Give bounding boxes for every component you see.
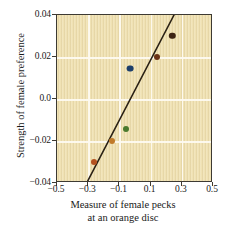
x-axis-title-line1: Measure of female pecks [40, 199, 206, 212]
x-tick-label: 0.5 [195, 184, 229, 194]
x-tick-label: 0.1 [133, 184, 167, 194]
data-point [109, 138, 115, 144]
plot-area [56, 14, 212, 182]
data-point [127, 65, 134, 72]
y-axis-tick [52, 98, 56, 99]
x-tick-label: −0.3 [70, 184, 104, 194]
x-tick-label: 0.3 [164, 184, 198, 194]
scatter-plot-figure: −0.5−0.3−0.10.10.30.5 −0.04−0.020.00.020… [0, 0, 233, 238]
regression-line [57, 15, 211, 181]
x-tick-label: −0.1 [101, 184, 135, 194]
x-axis-title: Measure of female pecks at an orange dis… [40, 199, 206, 224]
y-axis-tick [52, 14, 56, 15]
y-axis-tick [52, 140, 56, 141]
y-axis-title: Strength of female preference [15, 16, 26, 176]
y-tick-label: −0.04 [17, 177, 51, 187]
data-point [91, 159, 97, 165]
y-axis-tick [52, 56, 56, 57]
y-axis-tick [52, 182, 56, 183]
data-point [123, 126, 129, 132]
x-axis-title-line2: at an orange disc [40, 212, 206, 225]
data-point [154, 54, 160, 60]
